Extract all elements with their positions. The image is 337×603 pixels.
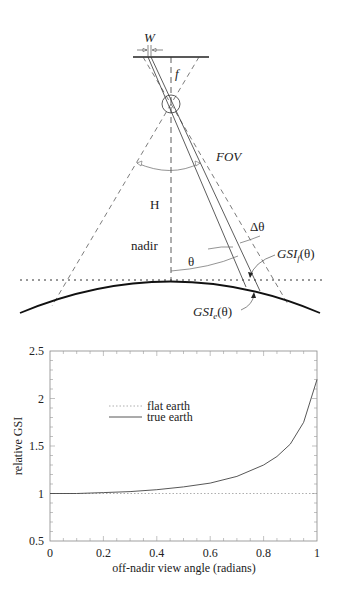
y-ticks [50,361,317,532]
x-tick-label: 0.4 [149,546,164,560]
label-gsi-e: GSIe(θ) [193,304,232,321]
label-w: W [144,30,156,45]
label-delta-theta: Δθ [250,219,265,234]
x-tick-label: 1 [314,546,320,560]
x-tick-label: 0.2 [96,546,111,560]
y-tick-label: 2 [38,392,44,406]
w-dimension-arrows [137,45,163,58]
pixel-ray [148,57,260,291]
label-f: f [175,66,181,81]
legend: flat earth true earth [109,399,193,424]
y-tick-label: 0.5 [29,534,44,548]
y-tick-label: 1.5 [29,439,44,453]
series-true-earth [50,380,317,494]
gsi-e-arrowhead-icon [251,292,256,298]
sensor-geometry-diagram: W f FOV H nadir θ [20,30,325,321]
y-tick-labels: 2.5 2 1.5 1 0.5 [29,344,44,548]
gsi-f-arrow [250,255,275,277]
plot-frame [50,351,317,541]
y-axis-label: relative GSI [11,417,25,475]
label-gsi-f: GSIf(θ) [277,246,315,263]
earth-surface [20,282,320,314]
x-tick-label: 0.6 [203,546,218,560]
x-tick-labels: 0 0.2 0.4 0.6 0.8 1 [47,546,320,560]
fov-arrow-left-icon [137,161,142,166]
label-theta: θ [188,254,194,269]
y-tick-label: 2.5 [29,344,44,358]
fov-arrow-right-icon [195,161,200,166]
fov-cone-lines [52,57,289,306]
y-tick-label: 1 [38,487,44,501]
relative-gsi-chart: 2.5 2 1.5 1 0.5 0 0.2 0.4 0.6 0.8 1 off-… [11,344,320,575]
label-h: H [150,197,159,212]
delta-theta-arrows [208,236,260,249]
x-tick-label: 0.8 [256,546,271,560]
figure: W f FOV H nadir θ [0,0,337,603]
x-axis-label: off-nadir view angle (radians) [112,561,255,575]
label-fov: FOV [215,149,243,164]
label-nadir: nadir [131,238,158,253]
fov-arc [137,163,200,171]
legend-label-true-earth: true earth [147,410,193,424]
x-tick-label: 0 [47,546,53,560]
x-ticks [63,351,303,541]
theta-arc [171,256,238,271]
